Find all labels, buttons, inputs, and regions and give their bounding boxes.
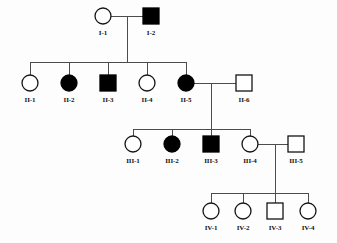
individual-label: I-2 [147,29,156,37]
individual-II-2[interactable]: II-2 [61,75,77,104]
individual-I-1[interactable]: I-1 [95,8,111,37]
individual-II-3[interactable]: II-3 [100,75,116,104]
individual-I-2[interactable]: I-2 [143,8,159,37]
individual-label: III-2 [165,157,179,165]
individual-II-5[interactable]: II-5 [178,75,194,104]
individual-label: III-3 [204,157,218,165]
generation-III: III-1 III-2 III-3 III-4 III-5 [125,136,304,193]
individual-IV-3[interactable]: IV-3 [267,203,283,232]
individual-label: III-1 [126,157,140,165]
symbol-square-affected[interactable] [100,75,116,91]
individual-label: III-5 [289,157,303,165]
individual-label: II-3 [103,96,114,104]
individual-label: IV-4 [302,224,315,232]
symbol-circle-unaffected[interactable] [139,75,155,91]
individual-label: II-1 [25,96,36,104]
generation-II: II-1 II-2 II-3 II-4 II-5 [22,75,252,129]
sibship-line-IV [211,193,308,203]
symbol-circle-affected[interactable] [61,75,77,91]
symbol-circle-unaffected[interactable] [95,8,111,24]
individual-label: IV-2 [237,224,250,232]
individual-label: IV-1 [205,224,218,232]
individual-IV-1[interactable]: IV-1 [203,203,219,232]
symbol-circle-unaffected[interactable] [300,203,316,219]
generation-IV: IV-1 IV-2 IV-3 IV-4 [203,203,316,232]
symbol-square-unaffected[interactable] [236,75,252,91]
sibship-line-III [133,129,250,136]
symbol-circle-affected[interactable] [164,136,180,152]
individual-label: II-6 [239,96,250,104]
individual-III-3[interactable]: III-3 [203,136,219,165]
symbol-circle-unaffected[interactable] [242,136,258,152]
individual-IV-2[interactable]: IV-2 [235,203,251,232]
symbol-square-affected[interactable] [143,8,159,24]
individual-label: IV-3 [269,224,282,232]
individual-label: III-4 [243,157,257,165]
individual-label: II-4 [142,96,153,104]
symbol-circle-unaffected[interactable] [235,203,251,219]
symbol-circle-unaffected[interactable] [125,136,141,152]
symbol-square-unaffected[interactable] [267,203,283,219]
individual-III-1[interactable]: III-1 [125,136,141,165]
pedigree-canvas: I-1 I-2 II-1 [0,0,337,243]
individual-II-6[interactable]: II-6 [236,75,252,104]
symbol-circle-unaffected[interactable] [22,75,38,91]
individual-label: II-5 [181,96,192,104]
individual-label: I-1 [99,29,108,37]
sibship-line-II [30,62,186,75]
symbol-square-affected[interactable] [203,136,219,152]
pedigree-chart: I-1 I-2 II-1 [0,0,337,243]
symbol-circle-unaffected[interactable] [203,203,219,219]
individual-label: II-2 [64,96,75,104]
symbol-square-unaffected[interactable] [288,136,304,152]
individual-II-4[interactable]: II-4 [139,75,155,104]
individual-II-1[interactable]: II-1 [22,75,38,104]
individual-III-4[interactable]: III-4 [242,136,258,165]
individual-IV-4[interactable]: IV-4 [300,203,316,232]
individual-III-2[interactable]: III-2 [164,136,180,165]
symbol-circle-affected[interactable] [178,75,194,91]
generation-I: I-1 I-2 [95,8,159,62]
individual-III-5[interactable]: III-5 [288,136,304,165]
